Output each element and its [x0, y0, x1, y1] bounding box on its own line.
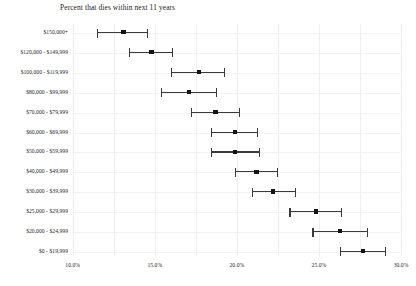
y-axis-tick-label: $150,000+ [0, 29, 68, 37]
data-row[interactable] [312, 226, 368, 238]
y-axis-tick-text: $30,000 - $39,999 [2, 188, 68, 194]
ci-cap-upper [295, 188, 296, 197]
y-axis-tick-text: $20,000 - $24,999 [2, 228, 68, 234]
ci-cap-upper [367, 228, 368, 237]
x-axis-tick-label: 20.0% [217, 262, 257, 268]
data-row[interactable] [211, 146, 260, 158]
ci-cap-upper [147, 29, 148, 38]
data-point-marker[interactable] [149, 50, 153, 54]
gridline-horizontal [72, 212, 402, 213]
ci-cap-lower [211, 128, 212, 137]
gridline-vertical [360, 24, 361, 256]
gridline-vertical [401, 24, 402, 256]
ci-cap-lower [171, 68, 172, 77]
y-axis-tick-label: $20,000 - $24,999 [0, 228, 68, 236]
data-row[interactable] [252, 186, 296, 198]
y-axis-tick-text: $70,000 - $79,999 [2, 109, 68, 115]
ci-cap-upper [172, 48, 173, 57]
y-axis-tick-text: $150,000+ [2, 29, 68, 35]
y-axis-tick-text: $40,000 - $49,999 [2, 168, 68, 174]
data-row[interactable] [171, 67, 225, 79]
y-axis-tick-text: $25,000 - $29,999 [2, 208, 68, 214]
data-point-marker[interactable] [314, 209, 318, 213]
ci-cap-lower [312, 228, 313, 237]
y-axis-tick-text: $120,000 - $149,999 [2, 49, 68, 55]
data-point-marker[interactable] [361, 249, 365, 253]
gridline-vertical [73, 24, 74, 256]
ci-cap-upper [257, 128, 258, 137]
ci-cap-upper [277, 168, 278, 177]
y-axis-tick-text: $50,000 - $59,999 [2, 148, 68, 154]
y-axis-tick-text: $80,000 - $99,999 [2, 89, 68, 95]
ci-cap-lower [340, 247, 341, 256]
gridline-horizontal [72, 73, 402, 74]
data-point-marker[interactable] [121, 30, 125, 34]
ci-cap-lower [235, 168, 236, 177]
x-axis-tick-label: 25.0% [299, 262, 339, 268]
ci-cap-upper [259, 148, 260, 157]
data-row[interactable] [235, 166, 278, 178]
gridline-vertical [278, 24, 279, 256]
ci-cap-lower [252, 188, 253, 197]
ci-cap-lower [161, 88, 162, 97]
data-row[interactable] [129, 47, 173, 59]
data-row[interactable] [97, 27, 148, 39]
y-axis-tick-text: $60,000 - $69,999 [2, 129, 68, 135]
data-point-marker[interactable] [233, 130, 237, 134]
data-point-marker[interactable] [213, 110, 217, 114]
data-point-marker[interactable] [197, 70, 201, 74]
x-axis-tick-label: 30.0% [381, 262, 416, 268]
gridline-vertical [237, 24, 238, 256]
y-axis-tick-label: $120,000 - $149,999 [0, 49, 68, 57]
y-axis-tick-label: $80,000 - $99,999 [0, 89, 68, 97]
y-axis-tick-label: $50,000 - $59,999 [0, 148, 68, 156]
x-axis-tick-label: 10.0% [53, 262, 93, 268]
gridline-vertical [319, 24, 320, 256]
gridline-horizontal [72, 192, 402, 193]
x-axis-tick-label: 15.0% [135, 262, 175, 268]
ci-cap-lower [191, 108, 192, 117]
y-axis-tick-label: $40,000 - $49,999 [0, 168, 68, 176]
y-axis-tick-label: $60,000 - $69,999 [0, 129, 68, 137]
data-row[interactable] [340, 246, 386, 258]
data-point-marker[interactable] [254, 170, 258, 174]
data-row[interactable] [191, 107, 240, 119]
ci-cap-lower [289, 208, 290, 217]
data-row[interactable] [289, 206, 342, 218]
data-row[interactable] [211, 127, 259, 139]
data-point-marker[interactable] [338, 229, 342, 233]
data-row[interactable] [161, 87, 217, 99]
gridline-vertical [114, 24, 115, 256]
y-axis-tick-label: $25,000 - $29,999 [0, 208, 68, 216]
data-point-marker[interactable] [271, 189, 275, 193]
data-point-marker[interactable] [187, 90, 191, 94]
ci-cap-lower [211, 148, 212, 157]
y-axis-tick-text: $100,000 - $119,999 [2, 69, 68, 75]
y-axis-tick-label: $100,000 - $119,999 [0, 69, 68, 77]
ci-cap-upper [385, 247, 386, 256]
ci-cap-lower [129, 48, 130, 57]
gridline-horizontal [72, 53, 402, 54]
ci-cap-upper [341, 208, 342, 217]
ci-cap-upper [224, 68, 225, 77]
y-axis-tick-text: $0 - $19,999 [2, 248, 68, 254]
ci-cap-lower [97, 29, 98, 38]
gridline-horizontal [72, 93, 402, 94]
chart-container: Percent that dies within next 11 years $… [0, 0, 416, 286]
gridline-vertical [196, 24, 197, 256]
data-point-marker[interactable] [233, 150, 237, 154]
y-axis-tick-label: $70,000 - $79,999 [0, 109, 68, 117]
ci-cap-upper [216, 88, 217, 97]
y-axis-tick-label: $0 - $19,999 [0, 248, 68, 256]
plot-area: $150,000+$120,000 - $149,999$100,000 - $… [0, 0, 416, 286]
ci-cap-upper [239, 108, 240, 117]
y-axis-tick-label: $30,000 - $39,999 [0, 188, 68, 196]
